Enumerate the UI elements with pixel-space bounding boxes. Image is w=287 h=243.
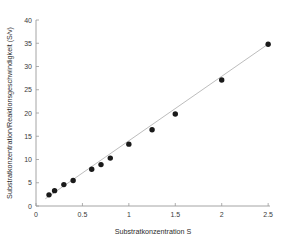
y-tick-label: 5 — [28, 179, 32, 186]
chart-canvas: 00.511.522.5 0510152025303540 Substratko… — [0, 0, 287, 243]
y-tick-label: 15 — [24, 133, 32, 140]
data-point — [173, 111, 178, 116]
data-point — [70, 178, 75, 183]
data-point — [46, 192, 51, 197]
axis-spines — [36, 20, 270, 206]
data-point — [265, 41, 270, 46]
y-tick-label: 30 — [24, 63, 32, 70]
x-tick-label: 1 — [127, 211, 131, 218]
x-tick-label: 1.5 — [170, 211, 180, 218]
x-tick-label: 0 — [34, 211, 38, 218]
regression-line — [45, 43, 270, 199]
data-point — [98, 162, 103, 167]
x-tick-label: 2.5 — [263, 211, 273, 218]
y-tick-label: 25 — [24, 86, 32, 93]
x-axis-label: Substratkonzentration S — [115, 227, 192, 236]
regression-line-group — [45, 43, 270, 199]
y-tick-label: 35 — [24, 40, 32, 47]
y-tick-label: 20 — [24, 110, 32, 117]
data-point — [219, 77, 224, 82]
y-axis-label: Substratkonzentration/Reaktionsgeschwind… — [5, 27, 14, 199]
data-point — [108, 155, 113, 160]
data-point — [61, 182, 66, 187]
data-point — [149, 127, 154, 132]
x-tick-label: 2 — [220, 211, 224, 218]
x-axis-ticks: 00.511.522.5 — [34, 203, 273, 218]
data-point — [126, 141, 131, 146]
y-tick-label: 10 — [24, 156, 32, 163]
chart-figure: 00.511.522.5 0510152025303540 Substratko… — [0, 0, 287, 243]
data-point — [52, 188, 57, 193]
y-axis-ticks: 0510152025303540 — [24, 17, 39, 210]
y-tick-label: 0 — [28, 203, 32, 210]
y-tick-label: 40 — [24, 17, 32, 24]
x-tick-label: 0.5 — [78, 211, 88, 218]
data-point — [89, 167, 94, 172]
